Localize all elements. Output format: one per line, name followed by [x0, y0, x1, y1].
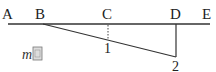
image-glyph-icon [33, 47, 42, 60]
label-2: 2 [172, 59, 179, 72]
label-d: D [170, 6, 181, 22]
geometry-diagram: A B C D E 1 2 m [0, 0, 216, 72]
diagram-canvas: A B C D E 1 2 m [0, 0, 216, 72]
label-m: m [22, 47, 32, 62]
label-c: C [102, 6, 112, 22]
label-b: B [35, 6, 45, 22]
label-1: 1 [104, 41, 111, 56]
label-a: A [2, 6, 13, 22]
label-e: E [202, 6, 211, 22]
